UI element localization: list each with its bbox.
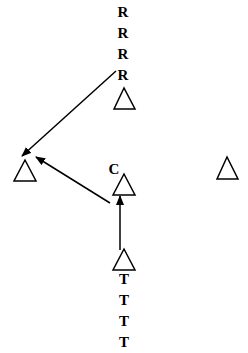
triangle-node-top	[114, 88, 135, 109]
arrow-top-to-left	[22, 71, 116, 156]
triangle-node-bottom	[113, 249, 135, 270]
label-t-4: T	[119, 334, 129, 350]
label-t-2: T	[119, 292, 129, 308]
tree-diagram: R R R R C T T T T	[0, 0, 248, 353]
triangle-node-middle	[113, 174, 135, 195]
arrow-middle-to-left	[36, 157, 110, 203]
label-r-2: R	[118, 25, 129, 41]
label-r-3: R	[118, 46, 129, 62]
label-t-1: T	[119, 271, 129, 287]
label-t-3: T	[119, 313, 129, 329]
label-c: C	[109, 161, 120, 177]
label-r-4: R	[118, 67, 129, 83]
triangle-node-left	[14, 160, 36, 181]
label-r-1: R	[118, 4, 129, 20]
triangle-node-right	[217, 157, 238, 179]
